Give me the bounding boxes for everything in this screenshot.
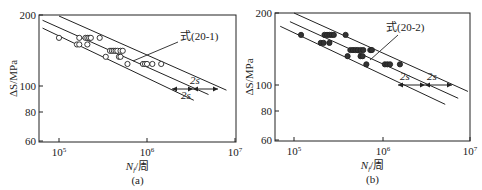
data-point: [77, 35, 82, 40]
arrowhead-icon: [213, 87, 218, 92]
x-tick-label: 107: [463, 145, 478, 157]
y-tick-label: 100: [256, 79, 273, 91]
data-point: [345, 54, 350, 59]
x-tick-label: 106: [140, 146, 155, 158]
y-axis-label: ΔS/MPa: [243, 58, 255, 95]
data-point: [360, 54, 365, 59]
sn-curve-line: [280, 26, 445, 104]
data-point: [387, 62, 392, 67]
data-point: [97, 35, 102, 40]
x-tick-label: 106: [376, 145, 391, 157]
arrowhead-icon: [193, 87, 198, 92]
data-point: [85, 42, 90, 47]
x-axis-label: Nf/周: [360, 159, 384, 173]
equation-annotation: 式(20-1): [180, 30, 219, 43]
data-point: [88, 35, 93, 40]
data-point: [103, 54, 108, 59]
y-tick-label: 60: [261, 134, 273, 146]
data-point: [369, 47, 374, 52]
annotation-leader: [370, 35, 398, 60]
data-point: [118, 54, 123, 59]
panel-caption: (a): [131, 174, 144, 187]
sn-curve-line: [59, 16, 226, 90]
x-axis-label: Nf/周: [125, 160, 149, 174]
data-point: [397, 62, 402, 67]
y-tick-label: 100: [20, 80, 37, 92]
y-tick-label: 80: [25, 106, 37, 118]
data-point: [120, 48, 125, 53]
data-point: [298, 32, 303, 37]
sn-curve-line: [294, 13, 468, 91]
x-tick-label: 105: [52, 146, 67, 158]
data-point: [125, 61, 130, 66]
y-tick-label: 60: [25, 135, 37, 147]
sn-curve-line: [43, 28, 194, 100]
panel-caption: (b): [366, 173, 379, 186]
plot-frame: [275, 13, 470, 141]
equation-annotation: 式(20-2): [386, 21, 425, 34]
band-label: 2s: [427, 70, 437, 82]
y-axis-label: ΔS/MPa: [7, 60, 19, 97]
chart-panel-b: 6080100200105106107ΔS/MPaNf/周(b)式(20-2)2…: [243, 7, 478, 186]
data-point: [343, 32, 348, 37]
y-tick-label: 200: [20, 9, 37, 21]
data-point: [150, 61, 155, 66]
data-point: [56, 35, 61, 40]
data-point: [361, 47, 366, 52]
data-point: [159, 61, 164, 66]
x-tick-label: 107: [228, 146, 243, 158]
chart-panel-a: 6080100200105106107ΔS/MPaNf/周(a)式(20-1)2…: [7, 9, 243, 187]
data-point: [144, 61, 149, 66]
sn-curve-line: [290, 22, 458, 99]
y-tick-label: 200: [256, 7, 273, 19]
figure-canvas: 6080100200105106107ΔS/MPaNf/周(a)式(20-1)2…: [0, 0, 482, 190]
data-point: [77, 42, 82, 47]
data-point: [327, 40, 332, 45]
band-label: 2s: [400, 70, 410, 82]
data-point: [364, 62, 369, 67]
x-tick-label: 105: [287, 145, 302, 157]
y-tick-label: 80: [261, 105, 273, 117]
band-label: 2s: [181, 89, 191, 101]
data-point: [331, 32, 336, 37]
data-point: [321, 40, 326, 45]
band-label: 2s: [190, 74, 200, 86]
